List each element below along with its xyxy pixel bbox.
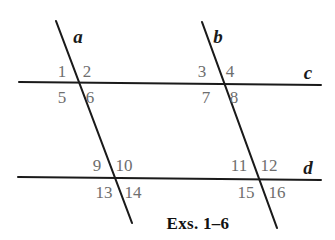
angle-label-10: 10: [116, 157, 133, 174]
angle-label-8: 8: [230, 89, 239, 106]
angle-label-2: 2: [83, 63, 92, 80]
angle-label-6: 6: [86, 89, 95, 106]
angle-label-9: 9: [93, 157, 102, 174]
angle-label-14: 14: [125, 184, 142, 201]
angle-label-3: 3: [198, 63, 207, 80]
line-label-a: a: [73, 27, 83, 46]
angle-label-5: 5: [58, 89, 67, 106]
angle-label-7: 7: [202, 89, 211, 106]
angle-label-11: 11: [231, 157, 247, 174]
angle-label-4: 4: [226, 63, 235, 80]
geometry-figure: a b c d 1 2 3 4 5 6 7 8 9 10 11 12 13 14…: [0, 0, 335, 240]
angle-label-16: 16: [269, 184, 286, 201]
figure-caption: Exs. 1–6: [167, 215, 230, 232]
line-a: [56, 21, 132, 223]
angle-label-15: 15: [238, 184, 255, 201]
line-c: [19, 82, 321, 85]
line-label-c: c: [304, 63, 312, 82]
line-d: [18, 177, 321, 180]
line-label-d: d: [303, 158, 313, 177]
angle-label-12: 12: [261, 157, 278, 174]
angle-label-1: 1: [58, 63, 67, 80]
line-label-b: b: [213, 27, 223, 46]
figure-canvas: [0, 0, 335, 240]
angle-label-13: 13: [96, 184, 113, 201]
